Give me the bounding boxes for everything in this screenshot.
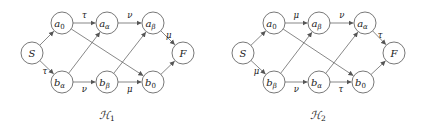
node-label: S bbox=[240, 48, 247, 59]
graph-h1: ττνμνμSa0aαaβbαbβb0Fℋ1 bbox=[21, 10, 194, 123]
node-label: S bbox=[29, 48, 36, 59]
node-S: S bbox=[232, 42, 254, 64]
node-ab: aβ bbox=[142, 12, 164, 34]
edge-label: μ bbox=[127, 84, 133, 94]
node-S: S bbox=[21, 42, 43, 64]
edge-label: μ bbox=[254, 66, 260, 76]
edge-S-a0 bbox=[251, 31, 266, 45]
node-ba: bα bbox=[308, 71, 330, 93]
edge-b0-F bbox=[371, 61, 386, 75]
edge-label: ν bbox=[339, 10, 344, 20]
node-ab: aβ bbox=[308, 12, 330, 34]
edge-bb-ab bbox=[281, 32, 312, 73]
node-a0: a0 bbox=[263, 12, 285, 34]
edge-label: τ bbox=[42, 66, 47, 76]
edge-b0-F bbox=[161, 61, 175, 74]
node-bb: bβ bbox=[96, 71, 118, 93]
edge-label: μ bbox=[166, 30, 172, 40]
edge-ba-aa bbox=[326, 32, 358, 73]
node-b0: b0 bbox=[352, 71, 374, 93]
edge-label: τ bbox=[82, 10, 87, 20]
diagram-canvas: ττνμνμSa0aαaβbαbβb0Fℋ1 μμντντSa0aβaαbβbα… bbox=[0, 0, 428, 134]
node-label: F bbox=[179, 48, 188, 59]
edge-label: τ bbox=[338, 84, 343, 94]
graph-h2: μμντντSa0aβaαbβbαb0Fℋ2 bbox=[232, 10, 405, 123]
edge-label: τ bbox=[378, 30, 383, 40]
edge-label: ν bbox=[294, 84, 299, 94]
node-F: F bbox=[383, 42, 405, 64]
caption: ℋ2 bbox=[310, 109, 326, 123]
edge-a0-b0 bbox=[71, 29, 143, 76]
edge-ba-aa bbox=[69, 32, 100, 73]
node-F: F bbox=[172, 42, 194, 64]
edge-S-a0 bbox=[40, 31, 54, 45]
edge-label: ν bbox=[82, 84, 87, 94]
edge-label: ν bbox=[127, 10, 132, 20]
node-ba: bα bbox=[51, 71, 73, 93]
node-aa: aα bbox=[354, 12, 376, 34]
node-bb: bβ bbox=[263, 71, 285, 93]
caption: ℋ1 bbox=[99, 109, 115, 123]
edge-label: μ bbox=[293, 10, 299, 20]
node-aa: aα bbox=[96, 12, 118, 34]
node-b0: b0 bbox=[142, 71, 164, 93]
edge-a0-b0 bbox=[283, 29, 353, 76]
node-label: F bbox=[390, 48, 399, 59]
node-a0: a0 bbox=[51, 12, 73, 34]
